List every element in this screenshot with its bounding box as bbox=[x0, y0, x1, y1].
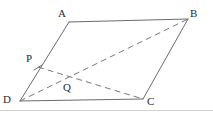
side-cd-line bbox=[20, 99, 143, 101]
segment-pc-dashed-line bbox=[38, 67, 143, 99]
side-bc-line bbox=[143, 19, 188, 99]
side-ab-line bbox=[69, 19, 188, 22]
vertex-label-a: A bbox=[58, 8, 66, 19]
intersection-label-q: Q bbox=[63, 82, 71, 93]
geometry-figure: A B C D P Q bbox=[0, 0, 213, 119]
point-label-p: P bbox=[26, 53, 32, 64]
vertex-label-c: C bbox=[147, 96, 155, 107]
vertex-label-b: B bbox=[190, 8, 198, 19]
vertex-label-d: D bbox=[3, 94, 11, 105]
